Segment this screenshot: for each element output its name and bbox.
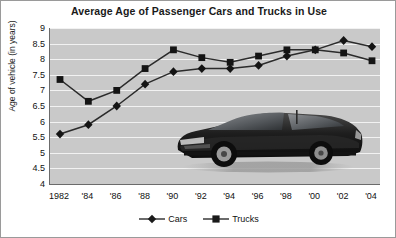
data-point-square: [170, 46, 177, 53]
x-tick-label: '96: [252, 191, 264, 201]
legend-item-cars[interactable]: Cars: [139, 214, 187, 224]
legend-item-trucks[interactable]: Trucks: [203, 214, 259, 224]
x-tick-label: '84: [81, 191, 93, 201]
y-tick-label: 8: [19, 55, 45, 64]
data-point-square: [57, 76, 64, 83]
y-tick-label: 4.5: [19, 164, 45, 173]
legend-label-cars: Cars: [168, 214, 187, 224]
data-point-diamond: [254, 61, 262, 70]
y-tick-label: 7.5: [19, 70, 45, 79]
series-trucks: [57, 46, 376, 104]
y-axis-title: Age of vehicle (in years): [7, 6, 17, 126]
x-tick-label: '04: [365, 191, 377, 201]
x-tick-label: '94: [223, 191, 235, 201]
x-tick-label: '00: [308, 191, 320, 201]
plot-area: [49, 28, 380, 185]
legend-diamond-icon: [139, 214, 165, 224]
data-point-square: [312, 46, 319, 53]
y-tick-label: 5.5: [19, 133, 45, 142]
y-tick-label: 4: [19, 180, 45, 189]
data-point-square: [142, 65, 149, 72]
data-point-square: [255, 53, 262, 60]
x-tick-label: '98: [280, 191, 292, 201]
y-tick-label: 7: [19, 86, 45, 95]
x-tick-label: '92: [195, 191, 207, 201]
y-tick-label: 8.5: [19, 39, 45, 48]
data-point-square: [85, 98, 92, 105]
data-point-square: [113, 87, 120, 94]
data-point-diamond: [198, 64, 206, 73]
x-tick-label: '90: [167, 191, 179, 201]
y-tick-label: 5: [19, 148, 45, 157]
series-line: [60, 40, 372, 134]
y-tick-label: 6.5: [19, 102, 45, 111]
data-point-square: [369, 57, 376, 64]
chart-figure: Average Age of Passenger Cars and Trucks…: [0, 0, 396, 238]
x-tick-label: 1982: [49, 191, 69, 201]
chart-legend: Cars Trucks: [1, 214, 396, 224]
data-point-diamond: [339, 36, 347, 45]
data-point-square: [227, 59, 234, 66]
data-point-square: [198, 54, 205, 61]
data-point-diamond: [84, 120, 92, 129]
series-line: [60, 50, 372, 101]
legend-square-icon: [203, 214, 229, 224]
legend-label-trucks: Trucks: [232, 214, 259, 224]
x-tick-label: '02: [337, 191, 349, 201]
x-tick-label: '86: [110, 191, 122, 201]
data-point-square: [340, 50, 347, 57]
x-tick-label: '88: [138, 191, 150, 201]
y-tick-label: 6: [19, 117, 45, 126]
x-axis-tick-labels: 1982'84'86'88'90'92'94'96'98'00'02'04: [31, 191, 391, 205]
data-point-diamond: [169, 67, 177, 76]
data-point-square: [284, 46, 291, 53]
data-point-diamond: [368, 42, 376, 51]
series-lines: [50, 28, 380, 184]
y-axis-tick-labels: 98.587.576.565.554.54: [19, 23, 45, 189]
data-point-diamond: [56, 130, 64, 139]
y-tick-label: 9: [19, 24, 45, 33]
chart-title: Average Age of Passenger Cars and Trucks…: [1, 5, 396, 17]
